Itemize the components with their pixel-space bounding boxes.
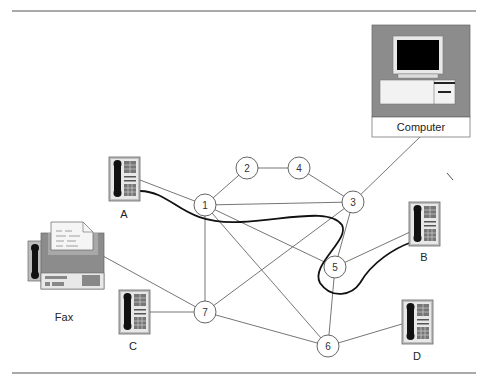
phone-b-icon	[409, 202, 440, 246]
fax-icon	[28, 222, 104, 289]
svg-text:5: 5	[332, 262, 338, 273]
phone-c-label: C	[129, 340, 137, 352]
node-2: 2	[236, 157, 258, 179]
highlighted-path	[140, 191, 412, 294]
phone-c-icon	[119, 290, 150, 334]
stray-mark	[447, 173, 453, 180]
node-6: 6	[317, 335, 339, 357]
svg-text:6: 6	[325, 341, 331, 352]
phone-b-label: B	[420, 251, 427, 263]
node-3: 3	[342, 191, 364, 213]
svg-text:2: 2	[244, 163, 250, 174]
svg-text:3: 3	[350, 197, 356, 208]
network-links	[103, 137, 420, 346]
node-7: 7	[194, 301, 216, 323]
svg-text:7: 7	[202, 307, 208, 318]
network-diagram: 1 2 4 3 5 7 6	[0, 0, 487, 387]
fax-label: Fax	[55, 311, 73, 323]
phone-a-label: A	[120, 208, 127, 220]
svg-text:4: 4	[296, 163, 302, 174]
phone-a-icon	[109, 157, 140, 201]
node-5: 5	[324, 256, 346, 278]
phone-d-icon	[402, 300, 433, 344]
phone-d-label: D	[413, 350, 421, 362]
node-1: 1	[194, 194, 216, 216]
node-4: 4	[288, 157, 310, 179]
computer-label: Computer	[372, 117, 470, 137]
svg-text:1: 1	[202, 200, 208, 211]
